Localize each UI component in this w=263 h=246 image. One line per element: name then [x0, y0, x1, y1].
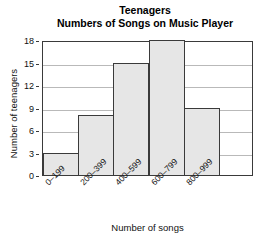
bar-series — [43, 42, 252, 175]
bar — [149, 40, 185, 175]
plot-area — [42, 41, 253, 176]
y-tick-mark — [36, 131, 39, 132]
y-axis: 0369121518 — [0, 41, 39, 176]
chart-title: Teenagers — [30, 4, 260, 17]
y-tick-label: 0 — [29, 172, 34, 181]
y-tick-mark — [36, 154, 39, 155]
chart-subtitle: Numbers of Songs on Music Player — [30, 17, 260, 30]
bar — [113, 63, 149, 176]
y-tick-mark — [36, 41, 39, 42]
y-tick-mark — [36, 109, 39, 110]
x-axis-title: Number of songs — [42, 222, 253, 233]
chart-figure: Teenagers Numbers of Songs on Music Play… — [0, 0, 263, 246]
y-tick-label: 18 — [24, 37, 34, 46]
y-tick-mark — [36, 64, 39, 65]
y-tick-label: 9 — [29, 104, 34, 113]
x-axis: 0–199200–399400–599600–799800–999 — [42, 176, 253, 218]
y-tick-label: 6 — [29, 127, 34, 136]
y-tick-label: 12 — [24, 82, 34, 91]
y-tick-label: 3 — [29, 149, 34, 158]
y-tick-mark — [36, 86, 39, 87]
y-tick-label: 15 — [24, 59, 34, 68]
chart-title-block: Teenagers Numbers of Songs on Music Play… — [30, 4, 260, 30]
y-tick-mark — [36, 176, 39, 177]
y-axis-title: Number of teenagers — [8, 49, 19, 179]
